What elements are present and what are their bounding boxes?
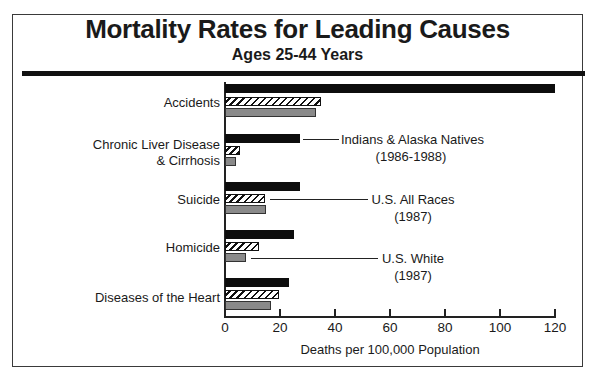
bar-liver-indians [225,134,300,143]
bar-liver-all-races [225,146,240,155]
legend-annotation-all-races: U.S. All Races (1987) [368,191,458,225]
bar-homicide-all-races [225,242,259,251]
x-tick-label-60: 60 [370,320,410,335]
legend-label-indians: Indians & Alaska Natives [341,131,481,148]
bar-accidents-all-races [225,97,321,106]
x-tick-120 [554,309,556,317]
bar-homicide-white [225,253,246,262]
bar-suicide-all-races [225,194,265,203]
bar-liver-white [225,157,236,166]
legend-years-all-races: (1987) [368,208,458,225]
category-label-accidents: Accidents [164,95,220,110]
leader-line-all-races [270,199,368,200]
x-axis-title: Deaths per 100,000 Population [225,342,555,357]
x-tick-label-80: 80 [425,320,465,335]
leader-line-indians [303,139,339,140]
x-tick-60 [389,309,391,317]
bar-suicide-indians [225,182,300,191]
x-tick-label-100: 100 [480,320,520,335]
bar-accidents-white [225,108,316,117]
leader-line-white [251,258,378,259]
title-rule [22,71,585,76]
x-tick-label-0: 0 [205,320,245,335]
category-label-homicide: Homicide [166,240,220,255]
legend-annotation-indians: Indians & Alaska Natives (1986-1988) [341,131,481,165]
bar-suicide-white [225,205,266,214]
bar-heart-all-races [225,290,279,299]
x-tick-0 [224,309,226,317]
bar-homicide-indians [225,230,294,239]
x-tick-40 [334,309,336,317]
legend-annotation-white: U.S. White (1987) [378,250,448,284]
chart-title: Mortality Rates for Leading Causes [0,14,595,45]
x-tick-label-120: 120 [535,320,575,335]
chart-subtitle: Ages 25-44 Years [0,46,595,64]
x-tick-label-20: 20 [260,320,300,335]
x-tick-20 [279,309,281,317]
bar-heart-white [225,301,271,310]
x-tick-100 [499,309,501,317]
legend-label-white: U.S. White [378,250,448,267]
bar-accidents-indians [225,84,555,93]
category-label-heart: Diseases of the Heart [95,290,220,305]
bar-heart-indians [225,278,289,287]
x-tick-80 [444,309,446,317]
category-label-liver-line2: & Cirrhosis [156,153,220,168]
legend-years-indians: (1986-1988) [341,148,481,165]
x-tick-label-40: 40 [315,320,355,335]
category-label-liver-line1: Chronic Liver Disease [93,137,220,152]
legend-label-all-races: U.S. All Races [368,191,458,208]
legend-years-white: (1987) [378,267,448,284]
category-label-suicide: Suicide [177,192,220,207]
